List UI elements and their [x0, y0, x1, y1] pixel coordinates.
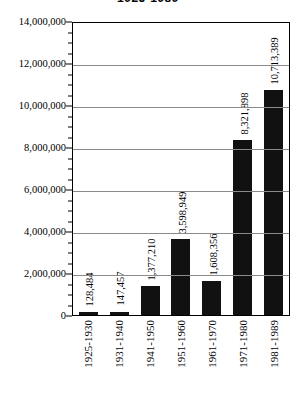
bar — [202, 281, 221, 315]
gridline — [73, 191, 289, 192]
gridline — [73, 107, 289, 108]
bar-item: 1,377,210 — [141, 23, 160, 315]
x-axis-tick-label: 1981-1989 — [269, 320, 280, 368]
bar — [110, 312, 129, 315]
bar-value-label: 8,321,898 — [239, 92, 250, 134]
gridline — [73, 65, 289, 66]
x-axis-tick-label: 1925-1930 — [82, 320, 93, 368]
bar — [233, 140, 252, 315]
bar-item: 3,598,949 — [171, 23, 190, 315]
x-axis-category: 1981-1989 — [265, 318, 284, 394]
x-axis-category: 1925-1930 — [78, 318, 97, 394]
y-axis-tick-label: 14,000,000 — [19, 17, 66, 28]
bar-value-label: 3,598,949 — [177, 191, 188, 233]
bar-value-label: 128,484 — [85, 272, 96, 306]
chart-title: 1925-1989 — [0, 0, 296, 5]
x-axis-tick-label: 1961-1970 — [207, 320, 218, 368]
y-axis-tick-label: 4,000,000 — [24, 227, 66, 238]
bar — [264, 90, 283, 315]
plot-area: 128,484147,4571,377,2103,598,9491,608,35… — [72, 22, 290, 316]
bar — [171, 239, 190, 315]
y-axis-tick-label: 2,000,000 — [24, 269, 66, 280]
x-axis-category: 1971-1980 — [234, 318, 253, 394]
bar-item: 10,713,389 — [264, 23, 283, 315]
x-axis-category: 1951-1960 — [171, 318, 190, 394]
bar-item: 147,457 — [110, 23, 129, 315]
x-axis-tick-label: 1971-1980 — [238, 320, 249, 368]
bar-value-label: 1,377,210 — [147, 238, 158, 280]
bar — [79, 312, 98, 315]
x-axis-tick-label: 1941-1950 — [144, 320, 155, 368]
y-axis-tick-label: 12,000,000 — [19, 59, 66, 70]
y-axis-tick-label: 8,000,000 — [24, 143, 66, 154]
bar-item: 8,321,898 — [233, 23, 252, 315]
x-axis-category: 1961-1970 — [203, 318, 222, 394]
bar-value-label: 147,457 — [116, 272, 127, 306]
bar-chart: 1925-1989 02,000,0004,000,0006,000,0008,… — [0, 0, 296, 394]
bar-item: 1,608,356 — [202, 23, 221, 315]
x-axis-tick-label: 1931-1940 — [113, 320, 124, 368]
x-axis-category: 1931-1940 — [109, 318, 128, 394]
bar-value-label: 10,713,389 — [270, 37, 281, 84]
y-axis: 02,000,0004,000,0006,000,0008,000,00010,… — [0, 22, 72, 316]
y-axis-tick-label: 10,000,000 — [19, 101, 66, 112]
bar-series: 128,484147,4571,377,2103,598,9491,608,35… — [73, 23, 289, 315]
gridline — [73, 233, 289, 234]
bar-item: 128,484 — [79, 23, 98, 315]
bar-value-label: 1,608,356 — [208, 233, 219, 275]
bar — [141, 286, 160, 315]
y-axis-tick-label: 6,000,000 — [24, 185, 66, 196]
x-axis: 1925-19301931-19401941-19501951-19601961… — [72, 318, 290, 394]
x-axis-tick-label: 1951-1960 — [175, 320, 186, 368]
gridline — [73, 149, 289, 150]
x-axis-category: 1941-1950 — [140, 318, 159, 394]
gridline — [73, 275, 289, 276]
